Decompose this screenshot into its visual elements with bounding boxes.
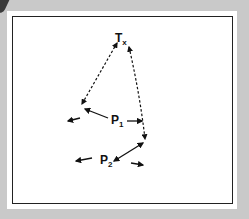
p2-arrow-right xyxy=(131,163,143,165)
diagram-canvas: Tx P1 P2 xyxy=(0,0,249,219)
dashed-link-tx-p2 xyxy=(129,47,145,139)
node-p1: P1 xyxy=(111,113,124,129)
arrow-left-1 xyxy=(68,118,80,121)
node-p2: P2 xyxy=(100,153,113,169)
node-tx: Tx xyxy=(115,31,127,47)
p2-double-arrow xyxy=(114,143,143,161)
p1-arrow-upleft xyxy=(85,109,108,118)
p2-arrow-left xyxy=(76,158,92,161)
dashed-link-tx-p1 xyxy=(82,43,117,104)
